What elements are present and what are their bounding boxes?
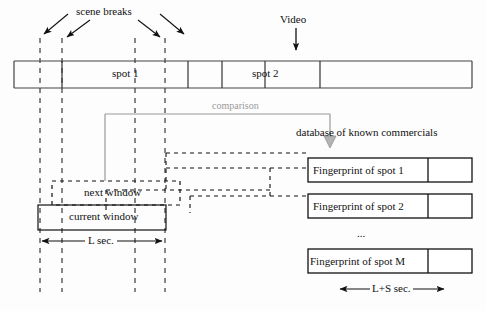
ls-sec-label: L+S sec. [370, 283, 413, 294]
scene-break-arrows [44, 14, 184, 37]
window-to-db-connectors [106, 153, 306, 216]
scene-break-lines [40, 38, 165, 292]
diagram-root: scene breaks Video spot 1 spot 2 compari… [0, 0, 486, 311]
comparison-bracket [105, 114, 336, 181]
l-sec-label: L sec. [85, 235, 117, 246]
video-segment-dividers [62, 61, 320, 88]
database-label: database of known commercials [296, 127, 437, 138]
comparison-label: comparison [212, 101, 259, 111]
fingerprint-label-2: Fingerprint of spot 2 [313, 200, 404, 212]
fingerprint-ellipsis: ... [357, 228, 365, 239]
current-window-label: current window [69, 211, 138, 222]
video-segment-spot-1-label: spot 1 [112, 68, 139, 79]
fingerprint-label-3: Fingerprint of spot M [310, 255, 405, 267]
next-window-label: next window [84, 187, 141, 198]
diagram-canvas [0, 0, 486, 311]
scene-breaks-label: scene breaks [76, 6, 132, 17]
video-timeline-bar [14, 61, 472, 88]
video-segment-spot-2-label: spot 2 [252, 68, 279, 79]
video-label: Video [280, 14, 306, 25]
fingerprint-label-1: Fingerprint of spot 1 [313, 164, 404, 176]
